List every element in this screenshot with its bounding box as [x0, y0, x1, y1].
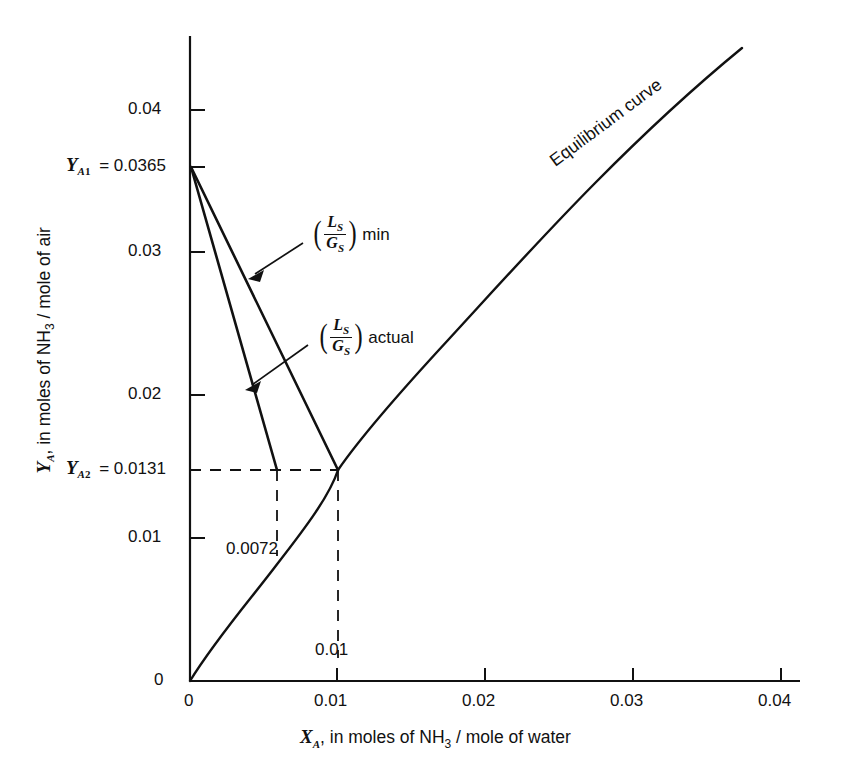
label-ya2: YA2 = 0.0131	[66, 458, 166, 480]
gs-subscript-min: S	[338, 242, 344, 254]
annotation-ls-gs-actual: ( LS GS )actual	[318, 317, 414, 358]
x-tick-label-0.03: 0.03	[610, 692, 643, 709]
ya2-value: = 0.0131	[95, 459, 166, 478]
paren-open-actual: (	[320, 319, 328, 353]
x-axis-title-text-2: / mole of water	[451, 727, 571, 747]
y-axis-title-text-2: / mole of air	[34, 227, 54, 323]
x-tick-label-0: 0	[184, 692, 193, 709]
ls-gs-actual-tail: actual	[364, 328, 413, 347]
y-axis-title-variable: Y	[33, 462, 54, 474]
equilibrium-curve	[190, 48, 742, 681]
ya1-value: = 0.0365	[95, 156, 166, 175]
x-tick-label-0.04: 0.04	[758, 692, 791, 709]
ls-subscript-actual: S	[343, 324, 349, 336]
ls-subscript-min: S	[337, 221, 343, 233]
y-tick-label-0.04: 0.04	[128, 100, 161, 117]
ls-gs-fraction-actual: LS GS	[329, 317, 353, 358]
equilibrium-operating-line-chart: 0 0.01 0.02 0.03 0.04 0 0.01 0.02 0.03 0…	[0, 0, 841, 773]
ls-numerator-actual: LS	[330, 317, 352, 337]
paren-open-min: (	[314, 216, 322, 250]
label-ya1: YA1 = 0.0365	[66, 155, 166, 177]
y-tick-label-0: 0	[154, 671, 163, 688]
y-tick-label-0.01: 0.01	[128, 528, 161, 545]
annotation-xa-actual-value: 0.0072	[226, 540, 278, 557]
ya1-subscript-a: A	[78, 165, 85, 177]
x-tick-label-0.02: 0.02	[462, 692, 495, 709]
ya2-subscript-a: A	[78, 468, 85, 480]
annotation-ls-gs-min: ( LS GS )min	[312, 214, 390, 255]
x-axis-title-text-1: , in moles of NH	[320, 727, 444, 747]
ya1-variable: Y	[66, 154, 78, 175]
paren-close-min: )	[349, 216, 357, 250]
x-axis-title-variable: X	[300, 726, 313, 747]
y-tick-label-0.02: 0.02	[128, 385, 161, 402]
y-axis-title-subscript: A	[44, 455, 56, 462]
y-tick-label-0.03: 0.03	[128, 242, 161, 259]
y-axis-title-chem-subscript: 3	[43, 323, 57, 330]
ya2-subscript-index: 2	[85, 468, 91, 480]
y-axis-title: YA, in moles of NH3 / mole of air	[33, 115, 58, 585]
x-axis-title-subscript: A	[313, 738, 320, 750]
ya2-variable: Y	[66, 457, 78, 478]
annotation-arrow-min	[248, 243, 303, 282]
x-tick-label-0.01: 0.01	[314, 692, 347, 709]
gs-denominator-actual: GS	[330, 337, 352, 358]
annotation-xa-min-value: 0.01	[315, 641, 348, 658]
ls-gs-fraction-min: LS GS	[323, 214, 347, 255]
paren-close-actual: )	[355, 319, 363, 353]
x-axis-ticks	[337, 668, 781, 681]
ya1-subscript-index: 1	[85, 165, 91, 177]
ls-numerator-min: LS	[324, 214, 346, 234]
x-axis-title: XA, in moles of NH3 / mole of water	[300, 727, 571, 750]
y-axis-title-text-1: , in moles of NH	[34, 330, 54, 454]
gs-subscript-actual: S	[344, 345, 350, 357]
ls-gs-min-tail: min	[358, 225, 389, 244]
chart-canvas	[0, 0, 841, 773]
gs-denominator-min: GS	[324, 234, 346, 255]
